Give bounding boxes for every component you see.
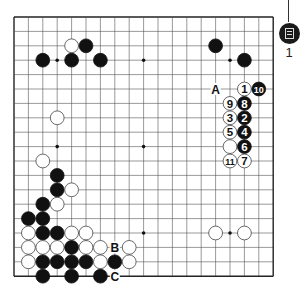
star-point xyxy=(55,145,59,149)
white-stone xyxy=(36,241,50,255)
white-stone xyxy=(36,154,50,168)
point-marker-a: A xyxy=(211,83,221,97)
white-stone xyxy=(50,111,64,125)
move-number: 1 xyxy=(241,83,248,95)
move-number: 6 xyxy=(241,141,247,153)
black-stone: 10 xyxy=(252,82,266,96)
black-stone xyxy=(36,53,50,67)
white-stone: 9 xyxy=(223,97,237,111)
black-stone xyxy=(50,226,64,240)
point-marker-b: B xyxy=(110,241,120,255)
white-stone xyxy=(94,255,108,269)
go-board: 1109832546117ABC xyxy=(0,0,302,297)
black-stone xyxy=(65,269,79,283)
black-stone xyxy=(79,255,93,269)
black-stone xyxy=(209,39,223,53)
move-number: 4 xyxy=(241,126,248,138)
document-icon xyxy=(285,28,294,39)
white-stone xyxy=(50,241,64,255)
black-stone xyxy=(65,241,79,255)
white-stone xyxy=(65,226,79,240)
white-stone xyxy=(209,226,223,240)
white-stone xyxy=(65,39,79,53)
black-stone xyxy=(22,212,36,226)
white-stone xyxy=(22,241,36,255)
black-stone xyxy=(238,53,252,67)
star-point xyxy=(55,58,59,62)
move-number: 5 xyxy=(227,126,234,138)
black-stone: 8 xyxy=(238,97,252,111)
black-stone xyxy=(50,183,64,197)
move-number: 3 xyxy=(227,112,233,124)
white-stone xyxy=(22,255,36,269)
white-stone xyxy=(238,226,252,240)
white-stone xyxy=(122,241,136,255)
white-stone: 5 xyxy=(223,125,237,139)
white-stone xyxy=(122,255,136,269)
star-point xyxy=(142,58,146,62)
white-stone: 11 xyxy=(223,154,237,168)
black-stone xyxy=(65,53,79,67)
white-stone xyxy=(65,183,79,197)
black-stone xyxy=(36,255,50,269)
marker-label: B xyxy=(110,241,119,255)
star-point xyxy=(142,231,146,235)
black-stone: 2 xyxy=(238,111,252,125)
marker-label: A xyxy=(211,83,220,97)
white-stone: 1 xyxy=(238,82,252,96)
black-stone xyxy=(36,269,50,283)
white-stone xyxy=(79,241,93,255)
white-stone xyxy=(223,140,237,154)
move-number: 10 xyxy=(254,85,264,95)
side-marker-line xyxy=(288,0,289,22)
white-stone xyxy=(79,226,93,240)
move-number: 7 xyxy=(241,155,247,167)
marker-label: C xyxy=(110,270,119,284)
black-stone: 6 xyxy=(238,140,252,154)
star-point xyxy=(228,231,232,235)
side-marker-number: 1 xyxy=(283,45,295,60)
black-stone xyxy=(79,39,93,53)
move-number: 11 xyxy=(225,157,235,167)
star-point xyxy=(142,145,146,149)
point-marker-c: C xyxy=(110,270,120,284)
white-stone: 7 xyxy=(238,154,252,168)
black-stone xyxy=(50,169,64,183)
black-stone xyxy=(108,255,122,269)
move-number: 9 xyxy=(227,98,233,110)
black-stone xyxy=(36,212,50,226)
side-marker-badge xyxy=(279,23,300,44)
black-stone xyxy=(36,226,50,240)
black-stone xyxy=(50,255,64,269)
move-number: 2 xyxy=(241,112,247,124)
white-stone: 3 xyxy=(223,111,237,125)
black-stone xyxy=(94,53,108,67)
white-stone xyxy=(94,241,108,255)
black-stone xyxy=(36,197,50,211)
white-stone xyxy=(22,226,36,240)
white-stone xyxy=(50,197,64,211)
black-stone xyxy=(94,269,108,283)
move-number: 8 xyxy=(241,98,248,110)
black-stone xyxy=(65,255,79,269)
star-point xyxy=(228,58,232,62)
black-stone: 4 xyxy=(238,125,252,139)
